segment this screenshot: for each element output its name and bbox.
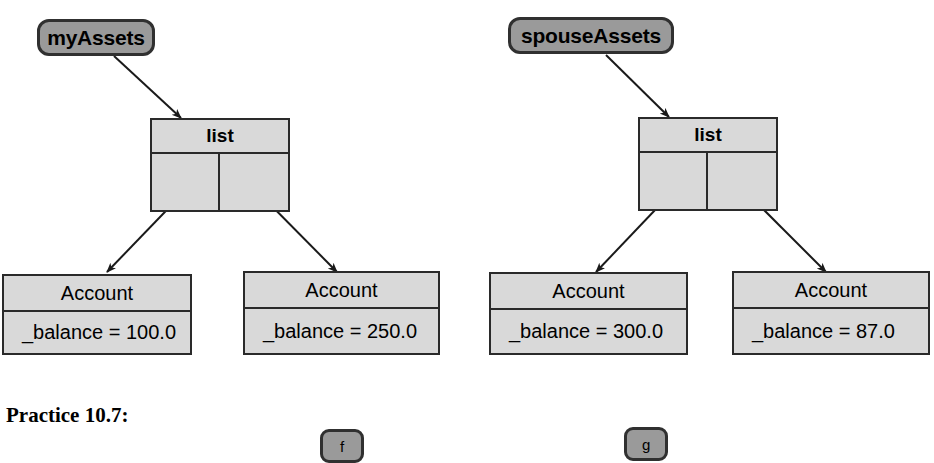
- variable-box-f[interactable]: f: [320, 429, 364, 463]
- object-field: _balance = 300.0: [491, 310, 686, 353]
- variable-label: spouseAssets: [521, 24, 661, 48]
- variable-label: f: [340, 438, 344, 455]
- variable-box-myassets[interactable]: myAssets: [37, 19, 155, 56]
- object-box-list-left[interactable]: list: [150, 118, 290, 212]
- edge-myassets-to-list: [114, 56, 181, 118]
- list-cells: [640, 153, 776, 209]
- object-box-account-4[interactable]: Account _balance = 87.0: [732, 271, 930, 355]
- object-box-account-1[interactable]: Account _balance = 100.0: [2, 274, 192, 355]
- object-title: list: [640, 119, 776, 153]
- variable-box-g[interactable]: g: [624, 427, 668, 461]
- list-cell-1[interactable]: [220, 154, 288, 210]
- object-box-account-2[interactable]: Account _balance = 250.0: [243, 271, 440, 355]
- object-class-name: Account: [245, 273, 438, 309]
- object-title: list: [152, 120, 288, 154]
- practice-caption: Practice 10.7:: [6, 403, 128, 428]
- variable-label: myAssets: [47, 26, 145, 50]
- list-cell-1[interactable]: [708, 153, 776, 209]
- object-box-list-right[interactable]: list: [638, 117, 778, 211]
- object-field: _balance = 250.0: [245, 309, 438, 353]
- list-cell-0[interactable]: [152, 154, 220, 210]
- object-field: _balance = 100.0: [4, 312, 190, 353]
- list-cells: [152, 154, 288, 210]
- variable-box-spouseassets[interactable]: spouseAssets: [508, 17, 674, 54]
- object-box-account-3[interactable]: Account _balance = 300.0: [489, 272, 688, 355]
- object-class-name: Account: [734, 273, 928, 309]
- variable-label: g: [642, 436, 650, 453]
- list-cell-0[interactable]: [640, 153, 708, 209]
- object-class-name: Account: [4, 276, 190, 312]
- object-class-name: Account: [491, 274, 686, 310]
- object-field: _balance = 87.0: [734, 309, 928, 353]
- edge-spouseassets-to-list: [606, 55, 669, 117]
